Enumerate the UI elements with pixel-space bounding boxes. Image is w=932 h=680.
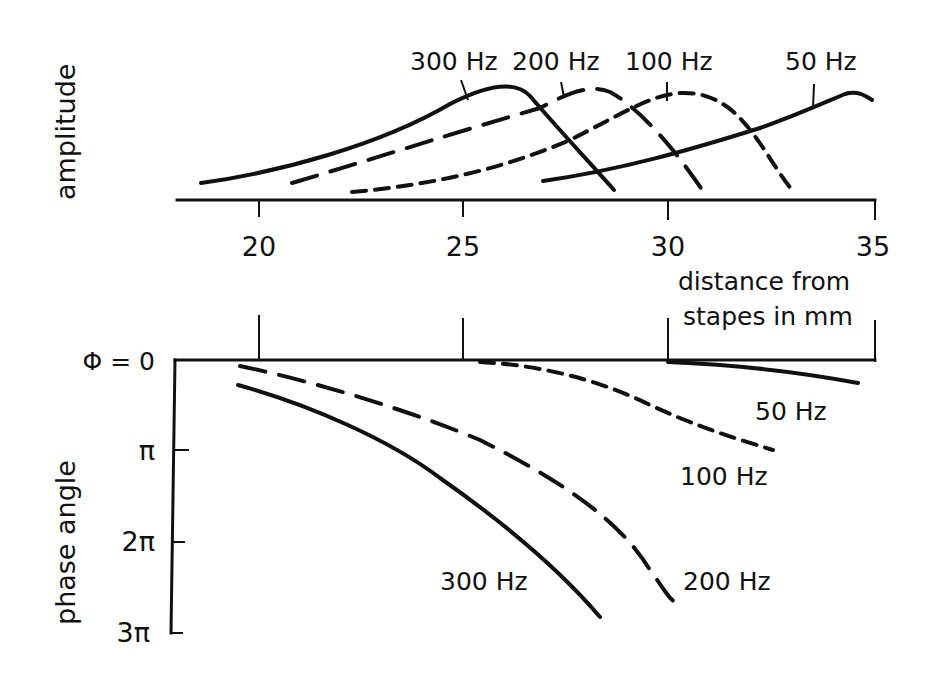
amp-label-200hz: 200 Hz xyxy=(512,47,600,76)
phase-label-300hz: 300 Hz xyxy=(440,567,528,596)
phase-curve-100hz xyxy=(480,362,773,450)
amp-label-300hz: 300 Hz xyxy=(410,47,498,76)
phase-curve-50hz xyxy=(668,362,858,383)
phase-label-200hz: 200 Hz xyxy=(683,567,771,596)
x-tick-label-30: 30 xyxy=(651,231,685,262)
x-tick-label-35: 35 xyxy=(856,231,890,262)
phase-label-100hz: 100 Hz xyxy=(680,462,768,491)
leader-50hz xyxy=(813,84,814,108)
phase-tick-label-0: Φ = 0 xyxy=(83,347,155,376)
x-tick-label-25: 25 xyxy=(446,231,480,262)
phase-axis-label: phase angle xyxy=(50,460,81,625)
cochlea-traveling-wave-figure: amplitude 20 25 30 35 distance from stap… xyxy=(0,0,932,680)
x-axis-label-line1: distance from xyxy=(678,267,850,296)
phase-panel: phase angle Φ = 0 π 2π 3π 50 Hz 100 Hz 2… xyxy=(50,315,875,648)
amp-label-100hz: 100 Hz xyxy=(625,47,713,76)
amplitude-panel: amplitude 20 25 30 35 distance from stap… xyxy=(50,47,890,331)
phase-tick-label-2pi: 2π xyxy=(122,526,155,557)
phase-tick-label-3pi: 3π xyxy=(117,617,150,648)
phase-tick-label-pi: π xyxy=(139,435,155,466)
x-tick-label-20: 20 xyxy=(242,231,276,262)
phase-label-50hz: 50 Hz xyxy=(755,397,827,426)
phase-y-axis xyxy=(171,360,175,633)
amp-label-50hz: 50 Hz xyxy=(785,47,857,76)
phase-curve-300hz xyxy=(238,385,600,617)
amp-curve-300hz xyxy=(201,87,614,190)
amplitude-axis-label: amplitude xyxy=(50,64,81,200)
x-axis-label-line2: stapes in mm xyxy=(683,302,853,331)
amp-curve-200hz xyxy=(292,89,706,196)
